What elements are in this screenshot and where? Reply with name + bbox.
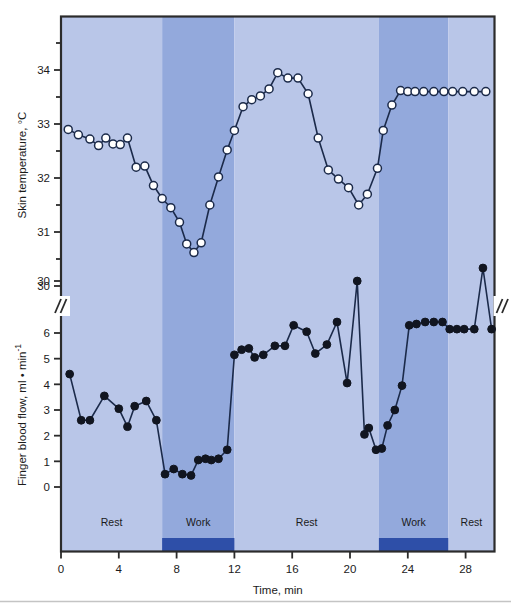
x-tick-label-8: 8: [173, 563, 179, 575]
blood-flow-point-22: [259, 351, 267, 359]
blood-flow-point-37: [391, 406, 399, 414]
x-axis-ticks: 0481216202428: [58, 552, 472, 575]
temperature-y-ticks: 3031323334: [37, 43, 61, 292]
skin-temperature-series-point-40: [411, 88, 419, 96]
x-tick-label-16: 16: [286, 563, 299, 575]
blood-flow-point-1: [77, 416, 85, 424]
skin-temperature-series-point-27: [294, 74, 302, 82]
activity-band-label-rest-0: Rest: [101, 516, 123, 528]
skin-temperature-series-point-25: [274, 69, 282, 77]
blood-flow-point-7: [142, 397, 150, 405]
blood-flow-point-24: [281, 342, 289, 350]
blood-flow-point-26: [303, 328, 311, 336]
blood-flow-point-41: [421, 318, 429, 326]
blood-flow-point-0: [66, 370, 74, 378]
activity-band-label-rest-4: Rest: [461, 516, 483, 528]
blood-flow-point-42: [430, 318, 438, 326]
skin-temperature-series-point-2: [86, 135, 94, 143]
skin-temperature-series-point-34: [363, 190, 371, 198]
blood-flow-point-9: [161, 470, 169, 478]
work-bar-3: [379, 538, 448, 551]
skin-temperature-series-point-41: [420, 88, 428, 96]
skin-temperature-series-point-9: [141, 162, 149, 170]
figure-container: RestWorkRestWorkRest30313233343001234560…: [0, 0, 511, 604]
blood-flow-point-29: [333, 318, 341, 326]
skin-temperature-series-point-1: [74, 131, 82, 139]
blood-flow-point-30: [343, 379, 351, 387]
chart-root: RestWorkRestWorkRest30313233343001234560…: [0, 17, 511, 602]
skin-temperature-series-point-36: [379, 126, 387, 134]
skin-temperature-series-point-42: [430, 88, 438, 96]
skin-temperature-series-point-13: [175, 218, 183, 226]
skin-temperature-series-point-22: [248, 96, 256, 104]
x-tick-label-0: 0: [58, 563, 64, 575]
skin-temperature-series-point-35: [373, 164, 381, 172]
blood-flow-point-38: [398, 382, 406, 390]
skin-temperature-series-point-46: [470, 88, 478, 96]
blood-flow-point-11: [178, 470, 186, 478]
skin-temperature-series-point-32: [345, 184, 353, 192]
blood-flow-point-4: [115, 405, 123, 413]
skin-temperature-series-point-28: [304, 90, 312, 98]
blood-flow-point-46: [460, 325, 468, 333]
blood-flow-point-47: [470, 325, 478, 333]
activity-band-label-work-1: Work: [186, 516, 211, 528]
blood-flow-point-16: [215, 455, 223, 463]
skin-temperature-series-point-10: [149, 182, 157, 190]
blood-flow-point-31: [353, 277, 361, 285]
blood-flow-point-17: [223, 446, 231, 454]
blood-flow-tick-label-5: 5: [44, 353, 50, 365]
blood-flow-point-3: [100, 392, 108, 400]
blood-flow-point-2: [86, 416, 94, 424]
skin-temperature-series-point-21: [239, 103, 247, 111]
skin-temperature-series-point-31: [334, 175, 342, 183]
work-bar-1: [162, 538, 234, 551]
activity-band-label-rest-2: Rest: [296, 516, 318, 528]
blood-flow-point-8: [152, 416, 160, 424]
skin-temperature-series-point-18: [215, 173, 223, 181]
blood-flow-point-43: [439, 318, 447, 326]
blood-flow-point-28: [323, 341, 331, 349]
blood-flow-tick-label-30: 30: [37, 275, 50, 287]
skin-temperature-series-point-7: [123, 134, 131, 142]
blood-flow-tick-label-4: 4: [44, 379, 51, 391]
skin-temperature-series-point-29: [314, 134, 322, 142]
blood-flow-point-25: [290, 321, 298, 329]
blood-flow-tick-label-6: 6: [44, 327, 50, 339]
blood-flow-point-6: [131, 402, 139, 410]
skin-temperature-series-point-12: [167, 204, 175, 212]
skin-temperature-series-point-26: [284, 74, 292, 82]
blood-flow-point-18: [231, 351, 239, 359]
skin-temperature-series-point-20: [230, 126, 238, 134]
blood-flow-point-5: [124, 423, 132, 431]
skin-temperature-series-point-15: [190, 249, 198, 257]
blood-flow-tick-label-2: 2: [44, 430, 50, 442]
skin-temperature-series-point-3: [95, 142, 103, 150]
skin-temperature-series-point-19: [223, 146, 231, 154]
skin-temperature-series-point-6: [116, 141, 124, 149]
blood-flow-point-19: [238, 346, 246, 354]
blood-flow-point-48: [479, 264, 487, 272]
blood-flow-point-13: [194, 456, 202, 464]
blood-flow-point-39: [405, 321, 413, 329]
skin-temperature-series-point-37: [388, 101, 396, 109]
blood-flow-point-10: [170, 465, 178, 473]
activity-band-label-work-3: Work: [401, 516, 426, 528]
skin-temperature-series-point-0: [64, 125, 72, 133]
skin-temperature-axis-title: Skin temperature, °C: [16, 112, 28, 219]
blood-flow-point-44: [446, 325, 454, 333]
blood-flow-tick-label-1: 1: [44, 456, 50, 468]
skin-temperature-series-point-33: [355, 201, 363, 209]
skin-temperature-series-point-17: [206, 201, 214, 209]
blood-flow-point-27: [311, 350, 319, 358]
temperature-tick-label-34: 34: [37, 64, 50, 76]
temperature-tick-label-33: 33: [37, 118, 50, 130]
skin-temperature-series-point-23: [256, 92, 264, 100]
blood-flow-point-45: [453, 325, 461, 333]
blood-flow-point-49: [488, 325, 496, 333]
temperature-tick-label-31: 31: [37, 226, 50, 238]
skin-temperature-and-blood-flow-chart: RestWorkRestWorkRest30313233343001234560…: [0, 0, 511, 604]
skin-temperature-series-point-24: [265, 85, 273, 93]
x-tick-label-24: 24: [401, 563, 414, 575]
activity-bands: [61, 17, 495, 552]
